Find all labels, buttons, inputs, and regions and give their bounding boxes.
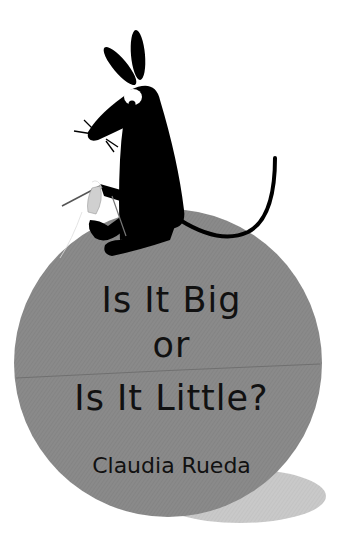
title-line-2: or [0,325,343,365]
mouse-pupil [129,101,136,108]
author-name: Claudia Rueda [0,453,343,479]
knitting-yarn [88,186,102,214]
title-line-3: Is It Little? [0,378,343,418]
title-line-1: Is It Big [0,280,343,320]
